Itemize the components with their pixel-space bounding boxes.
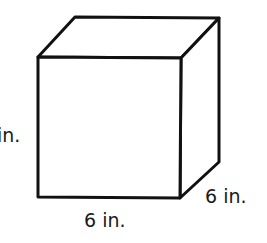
- cube-front-face: [38, 57, 181, 198]
- depth-label: 6 in.: [205, 185, 247, 207]
- width-label: 6 in.: [84, 209, 126, 231]
- cube-diagram: in. 6 in. 6 in.: [0, 0, 267, 243]
- height-label: in.: [0, 124, 20, 146]
